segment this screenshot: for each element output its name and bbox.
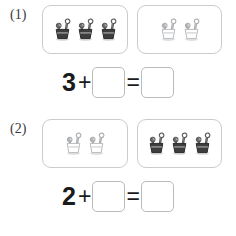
problem-label-1: (1): [10, 8, 26, 22]
problem-label-2: (2): [10, 122, 26, 136]
binder-clip-icon: [76, 17, 95, 42]
clip-group-light: [42, 119, 128, 168]
problem-row-2: (2) 2 + =: [0, 116, 236, 229]
clip-group-dark: [137, 119, 222, 168]
equation-2-result-input[interactable]: [141, 181, 174, 212]
binder-clip-icon: [147, 131, 166, 156]
binder-clip-icon: [159, 17, 178, 42]
problem-row-1: (1) 3 + =: [0, 2, 236, 115]
equation-2-equals-sign: =: [126, 185, 139, 208]
equation-1-second-operand-input[interactable]: [92, 67, 125, 98]
equation-1-equals-sign: =: [126, 71, 139, 94]
binder-clip-icon: [193, 131, 212, 156]
binder-clip-icon: [99, 17, 118, 42]
equation-1-result-input[interactable]: [141, 67, 174, 98]
equation-1-plus-operator: +: [78, 71, 91, 94]
equation-2-second-operand-input[interactable]: [92, 181, 125, 212]
clip-group-dark: [42, 5, 128, 54]
equation-2-first-operand: 2: [62, 184, 76, 209]
binder-clip-icon: [64, 131, 83, 156]
binder-clip-icon: [53, 17, 72, 42]
worksheet-page: (1) 3 + = (2) 2 + =: [0, 0, 236, 236]
equation-2-plus-operator: +: [78, 185, 91, 208]
binder-clip-icon: [170, 131, 189, 156]
clip-group-light: [137, 5, 222, 54]
equation-1: 3 + =: [0, 62, 236, 102]
binder-clip-icon: [87, 131, 106, 156]
binder-clip-icon: [182, 17, 201, 42]
equation-2: 2 + =: [0, 176, 236, 216]
equation-1-first-operand: 3: [62, 70, 76, 95]
